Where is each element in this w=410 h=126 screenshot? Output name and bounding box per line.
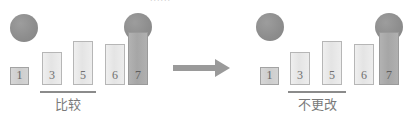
panel-before-caption: 比较 xyxy=(34,97,102,112)
compare-underline xyxy=(40,91,96,93)
bar-label: 5 xyxy=(323,69,341,81)
bar-1: 1 xyxy=(10,67,29,85)
bar-7: 7 xyxy=(379,32,399,85)
bar-label: 7 xyxy=(380,69,398,81)
bar-6: 6 xyxy=(105,44,125,85)
no-change-underline xyxy=(288,91,346,93)
bar-label: 7 xyxy=(129,69,147,81)
pointer-circle-left xyxy=(256,13,284,41)
bar-label: 3 xyxy=(43,69,61,81)
transition-arrow xyxy=(173,58,231,78)
bar-6: 6 xyxy=(354,44,374,85)
diagram-canvas: ...... 1 3 5 6 7 比较 xyxy=(0,0,410,126)
panel-before: 1 3 5 6 7 比较 xyxy=(0,0,180,126)
bar-label: 6 xyxy=(106,69,124,81)
bar-label: 5 xyxy=(74,69,92,81)
bar-label: 3 xyxy=(291,69,309,81)
bar-3: 3 xyxy=(42,52,62,85)
panel-after: 1 3 5 6 7 不更改 xyxy=(240,0,410,126)
bar-5: 5 xyxy=(73,41,93,85)
bar-3: 3 xyxy=(290,52,310,85)
bar-5: 5 xyxy=(322,41,342,85)
pointer-circle-left xyxy=(10,14,38,42)
panel-after-caption: 不更改 xyxy=(277,97,357,112)
bar-label: 1 xyxy=(261,69,278,81)
bar-1: 1 xyxy=(260,67,279,85)
bar-label: 1 xyxy=(11,69,28,81)
bar-label: 6 xyxy=(355,69,373,81)
arrow-right-icon xyxy=(173,58,231,78)
bar-7: 7 xyxy=(128,32,148,85)
